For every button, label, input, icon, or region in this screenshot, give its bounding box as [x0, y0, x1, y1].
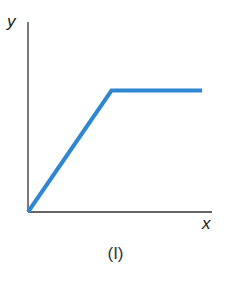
data-line — [28, 91, 202, 213]
figure-caption: (I) — [0, 244, 231, 264]
y-axis-label: y — [7, 12, 16, 32]
x-axis-label: x — [202, 214, 211, 234]
